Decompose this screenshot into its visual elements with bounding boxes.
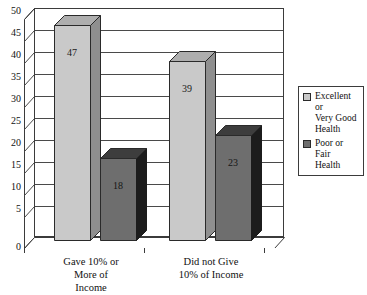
x-category-label-2-line1: Did not Give [156,255,266,268]
x-category-label-2: Did not Give 10% of Income [156,255,266,281]
chart-legend: Excellent or Very Good Health Poor or Fa… [298,86,364,176]
bar-chart: 50 45 40 35 30 25 20 15 10 5 0 [0,0,367,295]
x-category-label-1-line3: Income [36,281,146,294]
y-tick-10: 10 [11,182,21,192]
bar-group1-series2: 18 [100,159,136,241]
y-axis-labels: 50 45 40 35 30 25 20 15 10 5 0 [0,0,21,295]
x-category-label-1-line1: Gave 10% or [36,255,146,268]
x-tick-mid [144,248,145,253]
legend-label-series2: Poor or Fair Health [315,138,360,171]
legend-label-series1-line1: Excellent or [315,91,351,112]
y-tick-0: 0 [16,242,21,252]
x-tick-start [24,248,25,253]
y-tick-20: 20 [11,138,21,148]
legend-label-series1: Excellent or Very Good Health [315,91,360,135]
legend-swatch-icon-series1 [303,93,311,101]
legend-swatch-icon-series2 [303,140,311,148]
bar-group2-series1: 39 [169,62,205,241]
legend-label-series2-line1: Poor or Fair [315,138,343,159]
legend-label-series1-line3: Health [315,124,340,134]
plot-area: 47 18 39 [24,8,286,252]
y-tick-25: 25 [11,116,21,126]
y-tick-5: 5 [16,204,21,214]
legend-item-poor-or-fair-health: Poor or Fair Health [303,138,360,171]
bar-3d-shape [215,125,262,241]
y-tick-15: 15 [11,160,21,170]
y-tick-35: 35 [11,72,21,82]
legend-label-series1-line2: Very Good [315,113,356,123]
y-tick-50: 50 [11,6,21,16]
bar-3d-shape [169,51,216,241]
x-category-label-2-line2: 10% of Income [156,268,266,281]
bar-value-label: 18 [100,181,136,191]
bar-value-label: 47 [54,48,90,58]
x-category-label-1: Gave 10% or More of Income [36,255,146,294]
bar-3d-shape [100,148,147,241]
x-tick-end [264,248,265,253]
y-tick-45: 45 [11,28,21,38]
legend-label-series2-line2: Health [315,160,340,170]
x-category-label-1-line2: More of [36,268,146,281]
bar-value-label: 23 [215,158,251,168]
legend-item-excellent-or-very-good-health: Excellent or Very Good Health [303,91,360,135]
y-tick-30: 30 [11,94,21,104]
bar-value-label: 39 [169,84,205,94]
bar-group1-series1: 47 [54,26,90,241]
y-tick-40: 40 [11,50,21,60]
bar-group2-series2: 23 [215,136,251,241]
